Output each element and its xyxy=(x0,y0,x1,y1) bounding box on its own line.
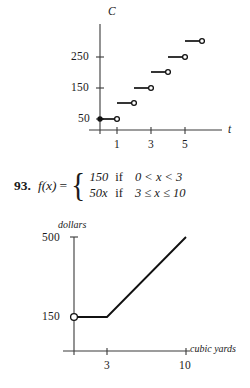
y-axis-label: C xyxy=(108,6,116,18)
y-tick-label-50: 50 xyxy=(78,113,90,125)
open-endpoint-4 xyxy=(166,70,171,75)
closed-endpoint-1 xyxy=(98,117,102,121)
x-tick-label-3: 3 xyxy=(104,360,110,372)
step-closed-endpoints xyxy=(98,117,102,121)
open-endpoint-2 xyxy=(132,101,137,106)
step-segments xyxy=(100,41,199,119)
x-axis-label: cubic yards xyxy=(190,344,236,354)
case-2-value: 50x xyxy=(90,186,109,201)
case-2-keyword: if xyxy=(115,186,123,201)
x-tick-label-1: 1 xyxy=(114,139,120,151)
open-endpoint-6 xyxy=(200,39,205,44)
graph-polyline xyxy=(74,237,186,317)
y-tick-label-500: 500 xyxy=(42,232,60,244)
case-2-condition: 3 ≤ x ≤ 10 xyxy=(130,186,186,201)
x-tick-label-10: 10 xyxy=(179,360,191,372)
step-cost-figure: C t 250 150 50 1 3 5 xyxy=(0,0,250,160)
piecewise-formula: 93. f(x) = { 150 if 0 < x < 3 50x if 3 ≤… xyxy=(0,163,250,208)
cases-grid: 150 if 0 < x < 3 50x if 3 ≤ x ≤ 10 xyxy=(90,170,186,201)
equals-sign: = xyxy=(60,178,68,194)
open-endpoint-150 xyxy=(71,314,78,321)
left-brace-glyph: { xyxy=(71,172,85,199)
case-1-value: 150 xyxy=(90,170,109,185)
x-tick-label-3: 3 xyxy=(148,139,154,151)
y-tick-label-150: 150 xyxy=(42,311,60,323)
problem-number: 93. xyxy=(14,178,31,194)
step-cost-chart-canvas xyxy=(0,0,250,160)
step-open-endpoints xyxy=(115,39,205,122)
open-endpoint-1 xyxy=(115,117,120,122)
dollars-chart-canvas xyxy=(0,210,250,388)
x-axis-label: t xyxy=(228,124,231,136)
open-endpoint-5 xyxy=(183,55,188,60)
open-endpoint-3 xyxy=(149,86,154,91)
case-1-condition: 0 < x < 3 xyxy=(130,170,186,185)
x-tick-label-5: 5 xyxy=(182,139,188,151)
y-tick-label-150: 150 xyxy=(71,82,89,94)
dollars-cubic-yards-figure: dollars cubic yards 500 150 3 10 xyxy=(0,210,250,388)
case-1-keyword: if xyxy=(115,170,123,185)
worksheet-page: C t 250 150 50 1 3 5 93. f(x) = { 150 if… xyxy=(0,0,250,388)
y-axis-label: dollars xyxy=(58,220,86,230)
y-tick-label-250: 250 xyxy=(71,51,89,63)
function-label: f(x) xyxy=(38,178,57,194)
